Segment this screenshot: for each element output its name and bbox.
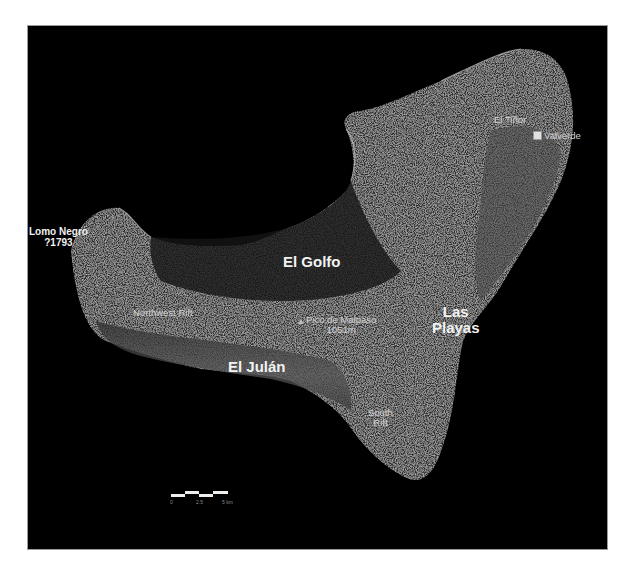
label-valverde: Valverde: [544, 131, 581, 141]
northeast-ridge: [475, 126, 561, 301]
south-rift-line2: Rift: [368, 418, 393, 428]
town-square-icon: [533, 131, 542, 140]
pico-elevation: 1051m: [306, 325, 376, 335]
island-relief: [28, 26, 608, 550]
lomo-negro-date: ?1793: [29, 238, 88, 249]
label-el-golfo: El Golfo: [283, 254, 341, 270]
map-frame: Lomo Negro ?1793 El Golfo Northwest Rift…: [27, 25, 608, 550]
scale-tick-0: 0: [170, 499, 173, 505]
lomo-negro-name: Lomo Negro: [29, 227, 88, 238]
las-playas-line1: Las: [432, 304, 480, 320]
label-lomo-negro: Lomo Negro ?1793: [29, 227, 88, 248]
scale-tick-2-5: 2.5: [196, 499, 203, 505]
las-playas-line2: Playas: [432, 320, 480, 336]
label-las-playas: Las Playas: [432, 304, 480, 336]
label-south-rift: South Rift: [368, 408, 393, 428]
peak-triangle-icon: [298, 319, 304, 324]
label-el-tinor: El Tiñor: [494, 115, 526, 125]
scale-bar: [171, 491, 228, 497]
label-northwest-rift: Northwest Rift: [133, 308, 193, 318]
label-pico-de-malpaso: Pico de Malpaso 1051m: [306, 315, 376, 335]
scale-tick-5km: 5 km: [222, 499, 233, 505]
label-el-julan: El Julán: [228, 359, 286, 375]
